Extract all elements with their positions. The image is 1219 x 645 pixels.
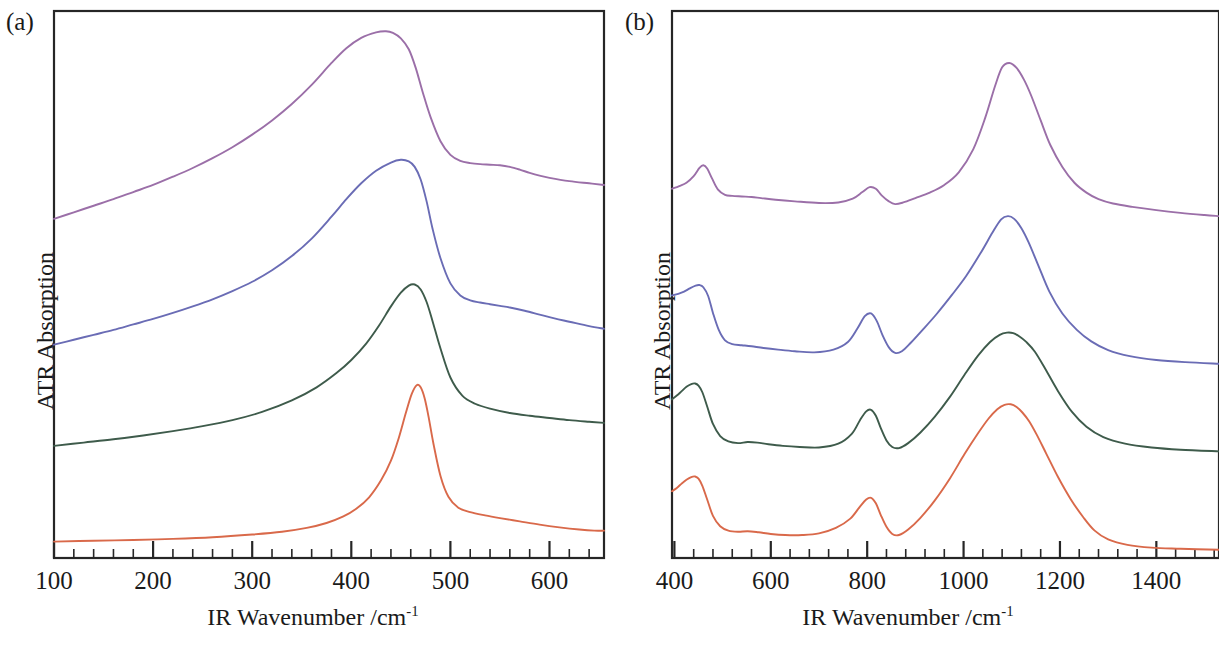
x-tick-label: 1000	[939, 567, 989, 594]
spectrum-curve-blue	[54, 160, 604, 345]
panel-b-x-axis-label-exponent: -1	[1001, 603, 1013, 619]
x-tick-label: 1400	[1131, 567, 1181, 594]
x-tick-label: 400	[333, 567, 371, 594]
panel-b-x-axis-label: IR Wavenumber /cm-1	[603, 604, 1213, 631]
spectrum-curve-green	[54, 284, 604, 446]
x-tick-label: 200	[134, 567, 172, 594]
x-tick-label: 600	[752, 567, 790, 594]
spectrum-curve-orange	[672, 404, 1219, 550]
x-tick-label: 100	[35, 567, 73, 594]
panel-a: (a) ATR Absorption 100200300400500600 IR…	[0, 0, 610, 645]
spectrum-curve-orange	[54, 385, 604, 542]
x-tick-label: 600	[531, 567, 569, 594]
x-tick-label: 800	[848, 567, 886, 594]
plot-frame	[672, 11, 1219, 558]
x-tick-label: 300	[233, 567, 271, 594]
ir-spectra-figure: (a) ATR Absorption 100200300400500600 IR…	[0, 0, 1219, 645]
panel-b-plot: 400600800100012001400	[609, 0, 1219, 645]
panel-a-x-axis-label-text: IR Wavenumber /cm	[207, 604, 406, 630]
spectrum-curve-green	[672, 333, 1219, 452]
spectrum-curve-purple	[54, 31, 604, 219]
panel-a-plot: 100200300400500600	[0, 0, 610, 645]
spectrum-curve-blue	[672, 216, 1219, 364]
panel-b-x-axis-label-text: IR Wavenumber /cm	[802, 604, 1001, 630]
plot-frame	[54, 11, 604, 558]
x-tick-label: 500	[432, 567, 470, 594]
spectrum-curve-purple	[672, 63, 1219, 216]
panel-a-x-axis-label-exponent: -1	[406, 603, 418, 619]
panel-a-x-axis-label: IR Wavenumber /cm-1	[8, 604, 618, 631]
x-tick-label: 1200	[1035, 567, 1085, 594]
x-tick-label: 400	[656, 567, 694, 594]
panel-b: (b) ATR Absorption 400600800100012001400…	[609, 0, 1219, 645]
